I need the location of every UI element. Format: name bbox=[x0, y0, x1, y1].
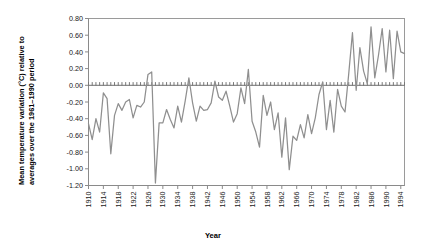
x-axis-title: Year bbox=[205, 231, 221, 240]
y-tick-label: -1.20 bbox=[67, 181, 83, 190]
x-tick-label: 1914 bbox=[99, 192, 108, 208]
x-tick-label: 1922 bbox=[129, 192, 138, 208]
x-tick-label: 1994 bbox=[396, 192, 405, 208]
y-tick-label: -0.40 bbox=[67, 114, 83, 123]
y-tick-label: -0.20 bbox=[67, 98, 83, 107]
x-tick-label: 1938 bbox=[188, 192, 197, 208]
x-tick-label: 1966 bbox=[292, 192, 301, 208]
y-tick-label: -0.80 bbox=[67, 148, 83, 157]
x-tick-label: 1910 bbox=[84, 192, 93, 208]
y-tick-label: 0.40 bbox=[69, 48, 83, 57]
x-tick-label: 1962 bbox=[277, 192, 286, 208]
y-tick-label: -1.00 bbox=[67, 164, 83, 173]
y-tick-label: 0.20 bbox=[69, 64, 83, 73]
chart-background bbox=[0, 0, 425, 248]
x-tick-label: 1942 bbox=[203, 192, 212, 208]
x-tick-label: 1918 bbox=[114, 192, 123, 208]
x-tick-label: 1954 bbox=[248, 192, 257, 208]
x-tick-label: 1978 bbox=[337, 192, 346, 208]
x-tick-label: 1950 bbox=[233, 192, 242, 208]
y-axis-title-line2: averages over the 1961–1990 period bbox=[27, 58, 36, 185]
y-tick-label: 0.60 bbox=[69, 31, 83, 40]
x-tick-label: 1974 bbox=[322, 192, 331, 208]
temperature-anomaly-chart: 0.800.600.400.200.00-0.20-0.40-0.60-0.80… bbox=[0, 0, 425, 248]
x-tick-label: 1934 bbox=[173, 192, 182, 208]
x-tick-label: 1986 bbox=[367, 192, 376, 208]
y-axis-title-line1: Mean temperature variation (°C) relative… bbox=[17, 36, 26, 185]
x-tick-label: 1946 bbox=[218, 192, 227, 208]
x-tick-label: 1990 bbox=[382, 192, 391, 208]
x-tick-label: 1958 bbox=[263, 192, 272, 208]
x-tick-label: 1926 bbox=[144, 192, 153, 208]
x-tick-label: 1982 bbox=[352, 192, 361, 208]
chart-canvas: 0.800.600.400.200.00-0.20-0.40-0.60-0.80… bbox=[0, 0, 425, 248]
x-tick-label: 1970 bbox=[307, 192, 316, 208]
y-tick-label: 0.00 bbox=[69, 81, 83, 90]
y-tick-label: -0.60 bbox=[67, 131, 83, 140]
y-tick-label: 0.80 bbox=[69, 14, 83, 23]
x-tick-label: 1930 bbox=[158, 192, 167, 208]
